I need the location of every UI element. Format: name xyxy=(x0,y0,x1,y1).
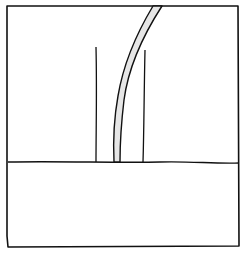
sketch-canvas xyxy=(0,0,242,254)
